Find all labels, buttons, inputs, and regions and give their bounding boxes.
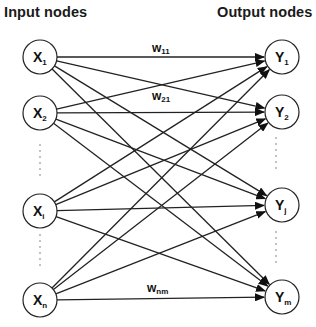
edge-xi-y1 (54, 67, 266, 202)
ellipsis-dot (275, 137, 277, 139)
ellipsis-dot (275, 155, 277, 157)
ellipsis-dot (39, 258, 41, 260)
input-node-x2: X2 (23, 96, 57, 130)
ellipsis-dot (275, 231, 277, 233)
input-node-x1: X1 (23, 40, 57, 74)
ellipsis-dot (39, 252, 41, 254)
ellipsis-dot (275, 249, 277, 251)
ellipsis-dot (275, 261, 277, 263)
weight-label-w21: w21 (151, 89, 171, 104)
ellipsis-dots (39, 137, 277, 266)
neural-network-diagram: X1X2XiXnY1Y2YjYm w11w21wnm (0, 0, 316, 327)
ellipsis-dot (39, 264, 41, 266)
edge-xi-y2 (56, 119, 266, 205)
output-node-y1: Y1 (265, 40, 299, 74)
ellipsis-dot (275, 255, 277, 257)
output-node-y2: Y2 (265, 95, 299, 129)
weight-label-w11: w11 (151, 41, 170, 56)
ellipsis-dot (39, 144, 41, 146)
ellipsis-dot (39, 168, 41, 170)
ellipsis-dot (39, 156, 41, 158)
ellipsis-dot (39, 240, 41, 242)
output-node-yj: Yj (265, 188, 299, 222)
output-node-ym: Ym (265, 280, 299, 314)
edge-x2-y2 (57, 112, 264, 113)
weight-label-wnm: wnm (146, 281, 168, 296)
ellipsis-dot (39, 234, 41, 236)
ellipsis-dot (39, 246, 41, 248)
input-node-xn: Xn (23, 283, 57, 317)
ellipsis-dot (275, 167, 277, 169)
input-node-xi: Xi (23, 194, 57, 228)
ellipsis-dot (39, 150, 41, 152)
ellipsis-dot (275, 237, 277, 239)
edge-xi-ym (56, 217, 265, 291)
ellipsis-dot (275, 161, 277, 163)
ellipsis-dot (39, 162, 41, 164)
ellipsis-dot (275, 143, 277, 145)
ellipsis-dot (39, 174, 41, 176)
ellipsis-dot (275, 243, 277, 245)
weight-labels: w11w21wnm (146, 41, 171, 296)
edge-xn-ym (57, 297, 264, 300)
ellipsis-dot (275, 149, 277, 151)
